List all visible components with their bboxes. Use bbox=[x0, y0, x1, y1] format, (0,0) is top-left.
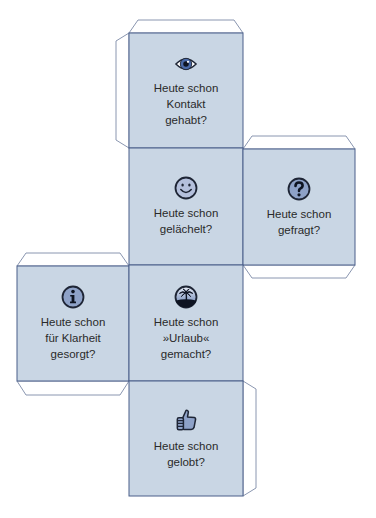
palm-island-icon bbox=[174, 285, 198, 309]
face-label-line: gemacht? bbox=[136, 346, 236, 362]
face-label-line: Heute schon bbox=[136, 205, 236, 221]
face-left: Heute schon für Klarheit gesorgt? bbox=[17, 271, 129, 376]
face-label-line: Heute schon bbox=[23, 314, 123, 330]
face-label-line: Kontakt bbox=[136, 96, 236, 112]
glue-tab-right-face-bottom bbox=[243, 265, 355, 278]
face-label-line: »Urlaub« bbox=[136, 330, 236, 346]
question-mark-icon bbox=[287, 177, 311, 201]
face-label-line: für Klarheit bbox=[23, 330, 123, 346]
info-icon bbox=[61, 285, 85, 309]
face-label-line: gefragt? bbox=[249, 222, 349, 238]
thumbs-up-icon bbox=[173, 407, 199, 433]
face-bottom: Heute schon gelobt? bbox=[129, 386, 243, 491]
glue-tab-top-face-top bbox=[129, 20, 243, 33]
face-top: Heute schon Kontakt gehabt? bbox=[129, 38, 243, 143]
face-label-line: Heute schon bbox=[136, 80, 236, 96]
smiley-icon bbox=[174, 176, 198, 200]
face-label: Heute schon »Urlaub« gemacht? bbox=[136, 314, 236, 362]
face-label: Heute schon gelächelt? bbox=[136, 205, 236, 237]
glue-tab-top-face-left bbox=[116, 33, 129, 148]
face-label-line: gehabt? bbox=[136, 112, 236, 128]
glue-tab-bottom-face-right bbox=[243, 381, 256, 496]
face-lower-middle: Heute schon »Urlaub« gemacht? bbox=[129, 270, 243, 376]
glue-tab-left-face-top bbox=[17, 253, 129, 266]
face-label-line: Heute schon bbox=[136, 314, 236, 330]
face-label-line: gelobt? bbox=[136, 454, 236, 470]
face-label: Heute schon für Klarheit gesorgt? bbox=[23, 314, 123, 362]
face-label: Heute schon gelobt? bbox=[136, 438, 236, 470]
glue-tab-left-face-bottom bbox=[17, 381, 129, 395]
face-label: Heute schon gefragt? bbox=[249, 206, 349, 238]
face-upper-middle: Heute schon gelächelt? bbox=[129, 153, 243, 260]
face-right: Heute schon gefragt? bbox=[243, 154, 355, 260]
eye-icon bbox=[172, 53, 200, 75]
glue-tab-right-face-top bbox=[243, 136, 355, 149]
face-label-line: Heute schon bbox=[249, 206, 349, 222]
face-label-line: gelächelt? bbox=[136, 221, 236, 237]
face-label: Heute schon Kontakt gehabt? bbox=[136, 80, 236, 128]
face-label-line: gesorgt? bbox=[23, 346, 123, 362]
face-label-line: Heute schon bbox=[136, 438, 236, 454]
